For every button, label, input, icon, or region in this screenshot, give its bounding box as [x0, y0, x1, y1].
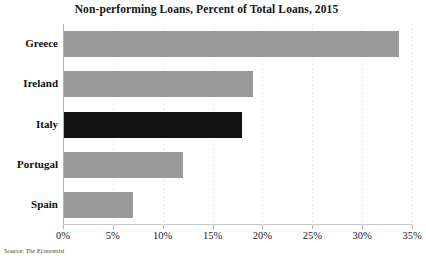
x-tick-label: 30% — [339, 230, 385, 241]
x-tick-mark — [163, 225, 164, 229]
x-axis-line — [63, 224, 412, 225]
x-tick-mark — [312, 225, 313, 229]
x-tick-label: 15% — [190, 230, 236, 241]
gridline — [412, 24, 413, 225]
category-label-ireland: Ireland — [0, 77, 58, 89]
bar-ireland — [64, 71, 253, 97]
bar-italy — [64, 112, 242, 138]
chart-title: Non-performing Loans, Percent of Total L… — [0, 3, 413, 15]
source-note: Source: The Economist — [4, 247, 64, 254]
plot-area: 0%5%10%15%20%25%30%35% — [63, 24, 412, 225]
x-tick-mark — [63, 225, 64, 229]
x-tick-label: 5% — [90, 230, 136, 241]
x-tick-label: 10% — [140, 230, 186, 241]
x-tick-label: 20% — [239, 230, 285, 241]
x-tick-label: 25% — [289, 230, 335, 241]
x-tick-label: 0% — [40, 230, 86, 241]
x-tick-mark — [213, 225, 214, 229]
category-label-portugal: Portugal — [0, 158, 58, 170]
x-tick-label: 35% — [389, 230, 426, 241]
x-tick-mark — [362, 225, 363, 229]
bar-portugal — [64, 152, 183, 178]
bar-greece — [64, 31, 399, 57]
x-tick-mark — [412, 225, 413, 229]
x-tick-mark — [113, 225, 114, 229]
x-tick-mark — [262, 225, 263, 229]
source-name: The Economist — [25, 247, 64, 254]
category-label-greece: Greece — [0, 37, 58, 49]
source-label: Source: — [4, 247, 24, 254]
category-label-spain: Spain — [0, 198, 58, 210]
category-label-italy: Italy — [0, 118, 58, 130]
bar-spain — [64, 192, 133, 218]
